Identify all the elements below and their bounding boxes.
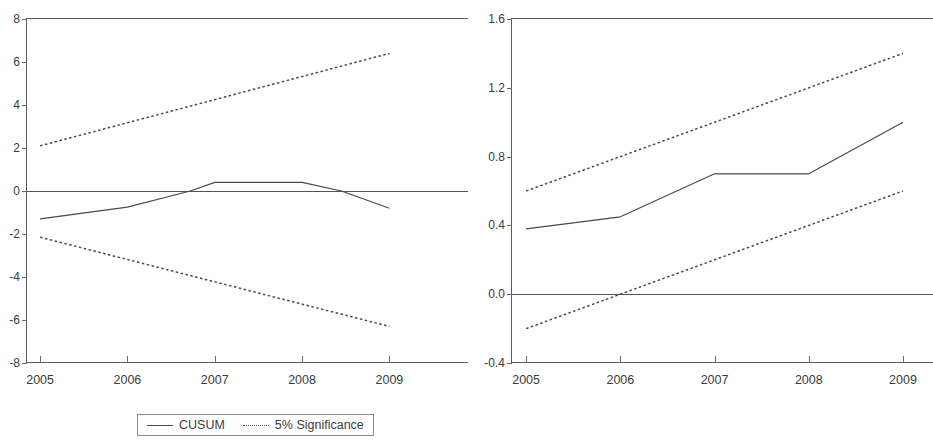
x-axis-tick-label: 2005: [26, 374, 54, 387]
y-axis-tick-label: 1.6: [488, 13, 505, 25]
cusum-of-squares-chart-panel: 1.61.20.80.40.0-0.4 20052006200720082009…: [470, 0, 933, 440]
x-axis-tick-label: 2008: [795, 374, 823, 387]
y-axis-tick-label: 2: [13, 142, 20, 154]
cusum-series-layer: [27, 19, 468, 363]
x-axis-tick-label: 2007: [701, 374, 729, 387]
y-axis-tick-label: -6: [9, 314, 20, 326]
series-line-1: [526, 53, 903, 191]
y-axis-tick-label: 0.0: [488, 288, 505, 300]
y-axis-tick-label: 0.8: [488, 151, 505, 163]
series-line-0: [526, 122, 903, 229]
cusum-of-squares-series-layer: [512, 19, 933, 363]
cusum-legend: CUSUM 5% Significance: [137, 414, 374, 436]
y-axis-tick-label: -0.4: [484, 357, 505, 369]
x-axis-tick-label: 2009: [375, 374, 403, 387]
legend-entry-significance: 5% Significance: [243, 419, 364, 432]
legend-entry-cusum: CUSUM: [147, 419, 225, 432]
y-axis-tick-label: 1.2: [488, 82, 505, 94]
y-axis-tick-label: 8: [13, 13, 20, 25]
y-axis-tick-label: -2: [9, 228, 20, 240]
y-axis-tick-label: 0.4: [488, 219, 505, 231]
solid-line-icon: [147, 425, 173, 426]
y-axis-tick-label: 6: [13, 56, 20, 68]
legend-label-significance: 5% Significance: [275, 419, 364, 432]
x-axis-tick-label: 2006: [114, 374, 142, 387]
series-line-2: [40, 237, 389, 326]
cusum-chart-panel: 86420-2-4-6-8 20052006200720082009 CUSUM…: [0, 0, 470, 440]
y-axis-tick-label: -8: [9, 357, 20, 369]
x-axis-tick-label: 2008: [288, 374, 316, 387]
series-line-2: [526, 191, 903, 329]
y-axis-tick: [22, 363, 27, 364]
x-axis-tick-label: 2009: [889, 374, 917, 387]
cusum-plot-area: 86420-2-4-6-8 20052006200720082009: [26, 18, 468, 363]
x-axis-tick-label: 2006: [606, 374, 634, 387]
dotted-line-icon: [243, 425, 269, 426]
x-axis-tick-label: 2007: [201, 374, 229, 387]
x-axis-tick-label: 2005: [512, 374, 540, 387]
series-line-1: [40, 53, 389, 145]
cusum-of-squares-plot-area: 1.61.20.80.40.0-0.4 20052006200720082009: [511, 18, 933, 363]
y-axis-tick: [507, 363, 512, 364]
y-axis-tick-label: -4: [9, 271, 20, 283]
legend-label-cusum: CUSUM: [179, 419, 225, 432]
series-line-0: [40, 182, 389, 219]
y-axis-tick-label: 4: [13, 99, 20, 111]
y-axis-tick-label: 0: [13, 185, 20, 197]
